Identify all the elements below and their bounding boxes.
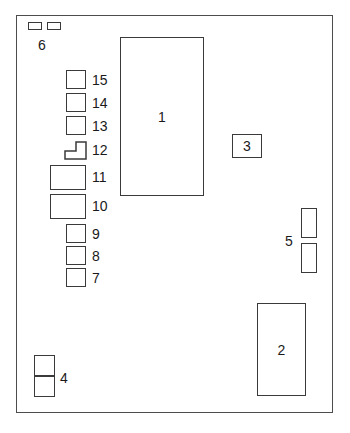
component-7[interactable]	[66, 268, 86, 287]
component-11[interactable]	[50, 165, 86, 190]
label-13: 13	[92, 119, 108, 133]
component-9[interactable]	[66, 224, 86, 243]
component-15[interactable]	[66, 70, 86, 89]
label-9: 9	[92, 227, 100, 241]
component-5-bar-top[interactable]	[301, 208, 317, 238]
component-10[interactable]	[50, 194, 86, 219]
component-14[interactable]	[66, 93, 86, 112]
label-5: 5	[285, 234, 293, 248]
label-15: 15	[92, 73, 108, 87]
component-4-square-bottom[interactable]	[34, 376, 55, 397]
label-7: 7	[92, 271, 100, 285]
component-12[interactable]	[64, 141, 87, 161]
label-4: 4	[60, 371, 68, 385]
label-11: 11	[92, 170, 107, 184]
label-8: 8	[92, 249, 100, 263]
label-6: 6	[38, 38, 46, 52]
component-8[interactable]	[66, 246, 86, 265]
label-3: 3	[232, 134, 262, 158]
label-2: 2	[257, 303, 306, 396]
label-1: 1	[120, 37, 204, 196]
label-14: 14	[92, 96, 108, 110]
component-5-bar-bottom[interactable]	[301, 243, 317, 273]
component-13[interactable]	[66, 116, 86, 135]
component-12-lshape-icon	[64, 141, 87, 161]
component-6-bar-left[interactable]	[28, 22, 42, 30]
label-10: 10	[92, 199, 108, 213]
component-6-bar-right[interactable]	[47, 22, 61, 30]
fuse-box-diagram: 6 15 14 13 12 11 10 9 8 7 1 3 5 2 4	[0, 0, 350, 433]
component-4-square-top[interactable]	[34, 355, 55, 376]
label-12: 12	[92, 143, 108, 157]
